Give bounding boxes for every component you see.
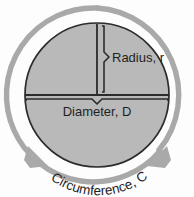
- radius-label: Radius, r: [112, 50, 165, 65]
- circle-geometry-figure: Radius, r Diameter, D Circumference, C: [0, 0, 194, 197]
- diagram-canvas: Radius, r Diameter, D Circumference, C: [0, 0, 194, 197]
- diameter-label: Diameter, D: [63, 104, 132, 119]
